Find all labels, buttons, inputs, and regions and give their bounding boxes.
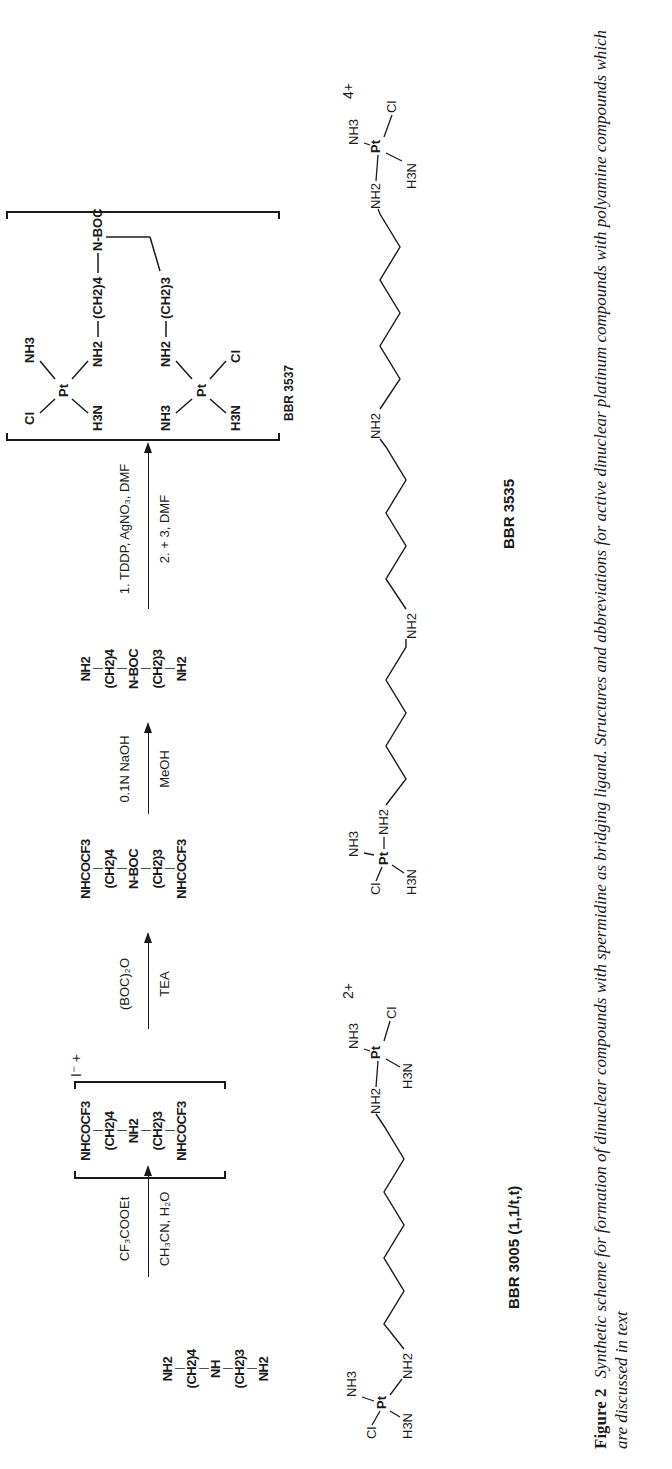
chain-row: (CH2)4 (102, 1091, 117, 1171)
step-3-reagent-above: 0.1N NaOH (117, 719, 132, 819)
svg-text:Cl: Cl (384, 101, 399, 113)
compound-boc-diamine: NH2 | (CH2)4 | N-BOC | (CH2)3 | NH2 (78, 639, 189, 699)
structure-bbr3535: Cl NH3 Pt H3N NH2 NH2 NH2 NH2 Pt NH3 H3N… (340, 9, 540, 909)
bracket-left (74, 1171, 226, 1179)
step-3-reagent-below: MeOH (157, 719, 172, 819)
svg-text:H3N: H3N (400, 1063, 415, 1089)
charge-label: I⁻ + (68, 1054, 84, 1077)
chain-row: NH2 (126, 1091, 141, 1171)
chain-row: NH (208, 1339, 223, 1399)
chain-row: NH2 (256, 1339, 271, 1399)
svg-text:Cl: Cl (228, 350, 243, 363)
charge-label: 4+ (340, 83, 356, 99)
charge-label: 2+ (0, 417, 2, 433)
charge-label: 2+ (340, 983, 356, 999)
svg-text:Pt: Pt (56, 383, 71, 397)
svg-text:NH3: NH3 (344, 1371, 359, 1397)
step-2-reagent-above: (BOC)₂O (117, 934, 132, 1034)
svg-text:NH2: NH2 (400, 1353, 415, 1379)
chain-row: NH2 (78, 639, 93, 699)
svg-text:NH3: NH3 (346, 1023, 361, 1049)
svg-text:NH2: NH2 (404, 613, 419, 639)
svg-text:Pt: Pt (376, 851, 391, 865)
svg-text:NH3: NH3 (158, 405, 173, 431)
step-4-reagent-above: 1. TDDP, AgNO₃, DMF (117, 444, 132, 614)
figure-caption: Figure 2 Synthetic scheme for formation … (590, 19, 632, 1449)
caption-text: Synthetic scheme for formation of dinucl… (591, 30, 631, 1449)
svg-text:NH3: NH3 (346, 831, 361, 857)
svg-text:NH2: NH2 (368, 1088, 383, 1114)
reaction-arrow-icon (148, 934, 149, 1029)
svg-text:H3N: H3N (404, 163, 419, 189)
chain-row: (CH2)4 (102, 639, 117, 699)
chain-row: NH2 (174, 639, 189, 699)
compound-label: BBR 3537 (282, 365, 296, 421)
svg-text:NH3: NH3 (346, 119, 361, 145)
compound-trifluoroacetamide: NHCOCF3 | (CH2)4 | NH2 | (CH2)3 | NHCOCF… (78, 1091, 189, 1171)
chain-row: NHCOCF3 (78, 829, 93, 909)
svg-text:Pt: Pt (368, 1045, 383, 1059)
chain-row: (CH2)4 (102, 829, 117, 909)
svg-text:H3N: H3N (228, 405, 243, 431)
svg-text:NH3: NH3 (22, 337, 37, 363)
reaction-arrow-icon (148, 444, 149, 609)
figure-page: NH2 | (CH2)4 | NH | (CH2)3 | NH2 CF₃COOE… (0, 0, 672, 1469)
svg-text:NH2: NH2 (90, 341, 105, 367)
svg-text:Pt: Pt (368, 139, 383, 153)
svg-text:Cl: Cl (368, 883, 383, 895)
chain-row: NHCOCF3 (174, 829, 189, 909)
chain-row: (CH2)3 (150, 1091, 165, 1171)
svg-text:Pt: Pt (194, 383, 209, 397)
reaction-arrow-icon (148, 1167, 149, 1277)
svg-text:(CH2)4: (CH2)4 (90, 276, 105, 319)
chain-row: (CH2)3 (150, 829, 165, 909)
svg-text:H3N: H3N (400, 1413, 415, 1439)
step-1-reagent-above: CF₃COOEt (117, 1174, 132, 1284)
chain-row: N-BOC (126, 639, 141, 699)
svg-text:(CH2)3: (CH2)3 (158, 277, 173, 319)
chain-row: (CH2)3 (150, 639, 165, 699)
step-4-reagent-below: 2. + 3, DMF (157, 444, 172, 614)
compound-label: BBR 3005 (1,1/t,t) (505, 1186, 522, 1309)
chain-row: (CH2)4 (184, 1339, 199, 1399)
chain-row: NH2 (160, 1339, 175, 1399)
chain-row: NHCOCF3 (78, 1091, 93, 1171)
compound-label: BBR 3535 (500, 479, 517, 549)
figure-number: Figure 2 (591, 1388, 610, 1449)
reaction-arrow-icon (148, 724, 149, 814)
svg-text:Cl: Cl (384, 1007, 399, 1019)
bracket-right (6, 211, 280, 219)
platinum-complex-bbr3537: Cl NH3 Pt H3N NH2 (CH2)4 N-BOC (CH2)3 NH… (10, 197, 275, 437)
chain-row: NHCOCF3 (174, 1091, 189, 1171)
compound-boc-protected: NHCOCF3 | (CH2)4 | N-BOC | (CH2)3 | NHCO… (78, 829, 189, 909)
svg-text:H3N: H3N (90, 405, 105, 431)
step-1-reagent-below: CH₃CN, H₂O (157, 1174, 172, 1284)
svg-text:Pt: Pt (374, 1395, 389, 1409)
compound-spermidine: NH2 | (CH2)4 | NH | (CH2)3 | NH2 (160, 1339, 271, 1399)
chain-row: N-BOC (126, 829, 141, 909)
chain-row: (CH2)3 (232, 1339, 247, 1399)
svg-text:NH2: NH2 (368, 183, 383, 209)
svg-text:NH2: NH2 (368, 413, 383, 439)
svg-text:NH2: NH2 (376, 809, 391, 835)
svg-text:Cl: Cl (364, 1427, 379, 1439)
step-2-reagent-below: TEA (157, 934, 172, 1034)
svg-text:NH2: NH2 (158, 341, 173, 367)
svg-text:H3N: H3N (404, 869, 419, 895)
bracket-right (74, 1081, 226, 1089)
svg-text:Cl: Cl (22, 412, 37, 425)
